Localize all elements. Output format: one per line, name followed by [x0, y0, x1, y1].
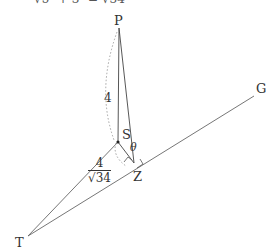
- label-S: S: [122, 128, 131, 141]
- label-G: G: [256, 82, 266, 95]
- fraction-denominator: √34: [88, 171, 111, 185]
- point-S: [116, 140, 119, 143]
- label-Z: Z: [133, 170, 142, 183]
- right-angle-marker-S: [124, 157, 132, 162]
- label-P: P: [114, 14, 123, 27]
- line-PS: [118, 28, 119, 142]
- line-TG: [28, 96, 254, 236]
- label-length-4: 4: [104, 92, 112, 104]
- dotted-arc-SZ: [115, 143, 126, 166]
- dotted-arc-PS: [106, 32, 117, 140]
- fraction-numerator: 4: [88, 157, 111, 171]
- geometry-figure: [0, 0, 279, 252]
- fraction-4-over-sqrt34: 4 √34: [88, 157, 111, 185]
- label-theta: θ: [130, 142, 137, 153]
- label-T: T: [15, 236, 24, 249]
